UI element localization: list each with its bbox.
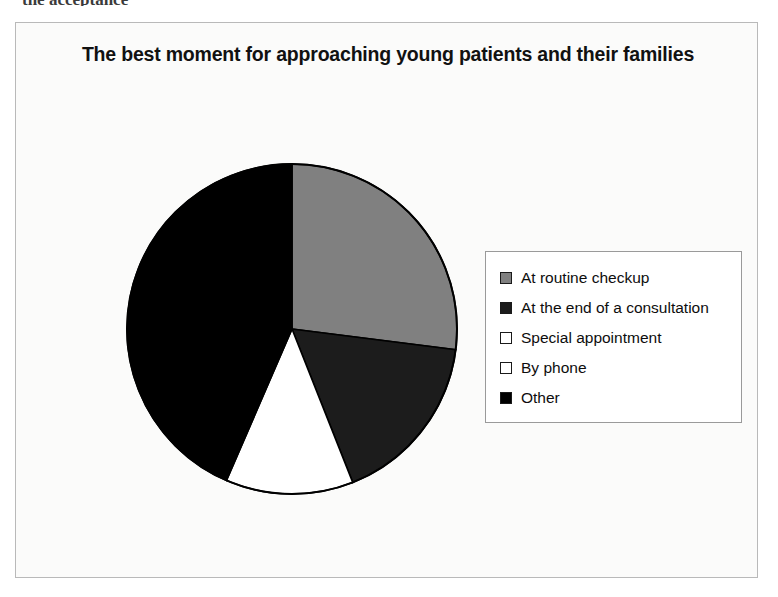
pie-chart xyxy=(112,149,472,509)
legend-item[interactable]: Other xyxy=(500,383,741,413)
chart-title: The best moment for approaching young pa… xyxy=(64,41,712,68)
legend-swatch-icon xyxy=(500,272,512,284)
legend-item-label: At routine checkup xyxy=(521,270,649,286)
clipped-page-heading-fragment: the acceptance xyxy=(22,0,322,6)
legend-item[interactable]: Special appointment xyxy=(500,323,741,353)
pie-slice-group xyxy=(127,164,457,494)
pie-slice[interactable] xyxy=(292,164,457,350)
legend-item[interactable]: At the end of a consultation xyxy=(500,293,741,323)
pie-svg xyxy=(112,149,472,509)
legend-item-label: Special appointment xyxy=(521,330,661,346)
legend-item-label: At the end of a consultation xyxy=(521,300,709,316)
legend-swatch-icon xyxy=(500,302,512,314)
legend-item-label: Other xyxy=(521,390,560,406)
chart-frame: The best moment for approaching young pa… xyxy=(15,22,758,578)
legend-swatch-icon xyxy=(500,332,512,344)
legend-item-label: By phone xyxy=(521,360,587,376)
legend-item[interactable]: At routine checkup xyxy=(500,263,741,293)
legend-swatch-icon xyxy=(500,392,512,404)
legend: At routine checkup At the end of a consu… xyxy=(485,251,742,423)
legend-swatch-icon xyxy=(500,362,512,374)
legend-item[interactable]: By phone xyxy=(500,353,741,383)
